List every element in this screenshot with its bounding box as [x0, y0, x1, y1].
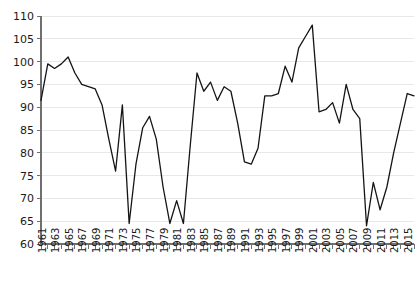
x-tick-label: 1983: [186, 228, 197, 253]
x-tick-label: 1975: [131, 228, 142, 253]
y-tick-label: 85: [20, 124, 34, 137]
x-tick-label: 1963: [50, 228, 61, 253]
x-tick-label: 2015: [403, 228, 414, 253]
x-tick-label: 1981: [172, 228, 183, 253]
gridlines: [41, 16, 414, 244]
x-tick-label: 2013: [389, 228, 400, 253]
series-line: [41, 25, 414, 226]
x-tick-label: 1985: [199, 228, 210, 253]
x-tick-label: 1995: [267, 228, 278, 253]
x-tick-label: 2001: [308, 228, 319, 253]
x-tick-label: 2005: [335, 228, 346, 253]
x-tick-label: 1973: [118, 228, 129, 253]
y-tick-label: 80: [20, 147, 34, 160]
x-tick-label: 1971: [104, 228, 115, 253]
x-tick-label: 1997: [281, 228, 292, 253]
y-tick-label: 95: [20, 78, 34, 91]
x-tick-label: 1965: [64, 228, 75, 253]
y-tick-label: 70: [20, 192, 34, 205]
x-tick-label: 1989: [226, 228, 237, 253]
x-tick-label: 1967: [77, 228, 88, 253]
x-tick-label: 2003: [321, 228, 332, 253]
data-series: [41, 25, 414, 226]
x-tick-label: 2009: [362, 228, 373, 253]
y-tick-label: 105: [13, 33, 34, 46]
x-axis: 1961196319651967196919711973197519771979…: [37, 228, 415, 253]
chart-plot-area: 6065707580859095100105110 19611963196519…: [0, 0, 420, 289]
y-tick-label: 90: [20, 101, 34, 114]
x-tick-label: 1969: [91, 228, 102, 253]
y-tick-label: 60: [20, 238, 34, 251]
x-tick-label: 1991: [240, 228, 251, 253]
line-chart: 6065707580859095100105110 19611963196519…: [0, 0, 420, 289]
x-tick-label: 1987: [213, 228, 224, 253]
x-tick-label: 1979: [159, 228, 170, 253]
x-tick-label: 2007: [348, 228, 359, 253]
y-tick-label: 75: [20, 170, 34, 183]
x-tick-label: 1961: [37, 228, 48, 253]
x-tick-label: 1977: [145, 228, 156, 253]
x-tick-label: 2011: [376, 228, 387, 253]
y-tick-label: 100: [13, 56, 34, 69]
x-tick-label: 1999: [294, 228, 305, 253]
x-tick-label: 1993: [254, 228, 265, 253]
y-tick-label: 110: [13, 10, 34, 23]
y-axis: 6065707580859095100105110: [13, 10, 41, 251]
y-tick-label: 65: [20, 215, 34, 228]
